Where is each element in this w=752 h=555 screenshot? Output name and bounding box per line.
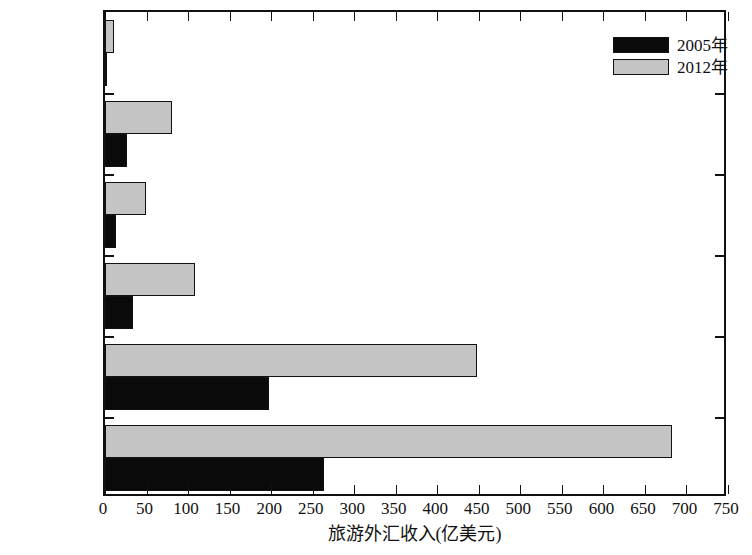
bar-2012[interactable]: [105, 182, 146, 215]
x-tick: [313, 485, 314, 494]
y-tick-right: [715, 174, 724, 176]
x-tick: [645, 485, 646, 494]
x-tick: [105, 485, 106, 494]
x-tick: [271, 485, 272, 494]
x-tick-top: [562, 12, 563, 21]
x-tick: [562, 485, 563, 494]
y-tick: [105, 93, 114, 95]
x-tick: [354, 485, 355, 494]
x-tick-label: 350: [381, 500, 407, 517]
y-tick: [105, 417, 114, 419]
x-tick-top: [188, 12, 189, 21]
x-tick: [230, 485, 231, 494]
x-tick-top: [354, 12, 355, 21]
x-tick-top: [645, 12, 646, 21]
y-tick-right: [715, 417, 724, 419]
bar-2005[interactable]: [105, 296, 133, 329]
legend-swatch-2012: [613, 59, 669, 75]
bar-2005[interactable]: [105, 53, 107, 86]
x-tick: [437, 485, 438, 494]
x-tick-label: 50: [136, 500, 153, 517]
x-tick-label: 150: [215, 500, 241, 517]
x-tick-label: 450: [464, 500, 490, 517]
x-tick-top: [437, 12, 438, 21]
x-tick-label: 100: [173, 500, 199, 517]
x-tick-top: [396, 12, 397, 21]
y-tick: [105, 255, 114, 257]
x-tick-label: 600: [589, 500, 615, 517]
y-tick-right: [715, 336, 724, 338]
x-tick-top: [479, 12, 480, 21]
x-tick-top: [686, 12, 687, 21]
bar-2012[interactable]: [105, 344, 477, 377]
plot-area: [103, 10, 726, 496]
bar-2005[interactable]: [105, 458, 324, 491]
bar-2012[interactable]: [105, 263, 195, 296]
x-tick-top: [728, 12, 729, 21]
x-tick: [520, 485, 521, 494]
x-tick-top: [520, 12, 521, 21]
x-tick-label: 500: [506, 500, 532, 517]
x-tick-label: 0: [99, 500, 108, 517]
bar-chart: 0501001502002503003504004505005506006507…: [0, 0, 752, 555]
x-tick-top: [271, 12, 272, 21]
x-tick: [147, 485, 148, 494]
x-axis-title: 旅游外汇收入(亿美元): [103, 525, 726, 543]
legend-swatch-2005: [613, 37, 669, 53]
x-tick-label: 250: [298, 500, 324, 517]
x-tick-label: 300: [339, 500, 365, 517]
y-tick: [105, 336, 114, 338]
bar-2005[interactable]: [105, 377, 269, 410]
x-tick-label: 550: [547, 500, 573, 517]
x-tick-top: [147, 12, 148, 21]
y-tick-right: [715, 255, 724, 257]
x-tick-label: 650: [630, 500, 656, 517]
x-tick-top: [603, 12, 604, 21]
legend-item-2012[interactable]: 2012年: [613, 56, 726, 78]
x-tick-label: 200: [256, 500, 282, 517]
x-tick-label: 750: [713, 500, 739, 517]
chart-legend: 2005年 2012年: [613, 30, 726, 82]
x-tick-top: [313, 12, 314, 21]
bar-2005[interactable]: [105, 134, 127, 167]
bar-2012[interactable]: [105, 425, 672, 458]
legend-label-2012: 2012年: [677, 59, 728, 76]
legend-label-2005: 2005年: [677, 37, 728, 54]
x-tick: [728, 485, 729, 494]
legend-item-2005[interactable]: 2005年: [613, 34, 726, 56]
x-tick: [396, 485, 397, 494]
bar-2012[interactable]: [105, 20, 114, 53]
x-tick: [479, 485, 480, 494]
x-tick-top: [105, 12, 106, 21]
bar-2005[interactable]: [105, 215, 116, 248]
x-tick: [603, 485, 604, 494]
y-tick: [105, 174, 114, 176]
bar-2012[interactable]: [105, 101, 172, 134]
x-tick-label: 400: [423, 500, 449, 517]
y-tick-right: [715, 93, 724, 95]
x-tick-top: [230, 12, 231, 21]
x-tick: [188, 485, 189, 494]
x-tick-label: 700: [672, 500, 698, 517]
x-tick: [686, 485, 687, 494]
